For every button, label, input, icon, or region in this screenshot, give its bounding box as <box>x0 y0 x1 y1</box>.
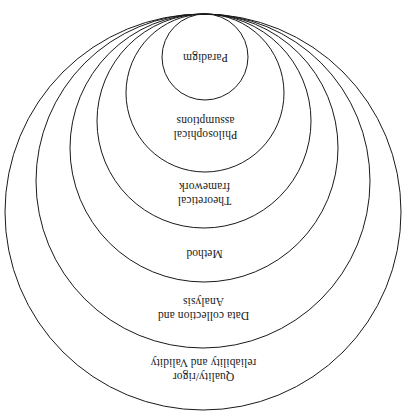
circle-layer-4 <box>70 14 338 282</box>
circle-layer-2 <box>126 14 284 172</box>
nested-circles-diagram: Paradigm Philosophical assumptions Theor… <box>0 0 405 413</box>
circle-layer-5 <box>36 14 370 348</box>
circle-layer-6 <box>5 14 401 410</box>
circle-layer-1 <box>162 14 248 100</box>
circles-group <box>0 0 405 413</box>
